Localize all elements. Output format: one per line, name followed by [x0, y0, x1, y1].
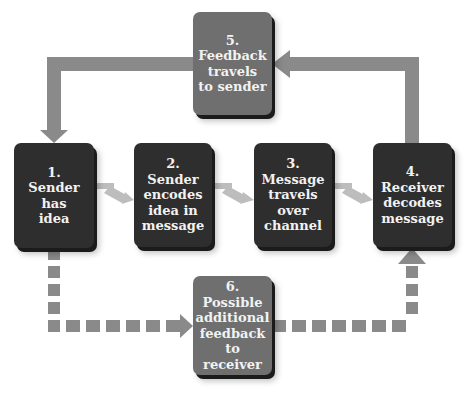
step-5-number: 5. [198, 33, 267, 49]
step-2-sender-encodes: 2.Sender encodes idea in message [134, 143, 212, 247]
step-6-number: 6. [195, 279, 270, 295]
step-6-label: Possible additional feedback to receiver [195, 295, 270, 373]
step-3-message-travels: 3.Message travels over channel [254, 143, 332, 247]
step-4-receiver-decodes: 4.Receiver decodes message [373, 143, 452, 247]
step-5-label: Feedback travels to sender [198, 48, 267, 95]
step-6-additional-feedback: 6.Possible additional feedback to receiv… [193, 276, 272, 375]
step-3-label: Message travels over channel [261, 172, 324, 234]
step-3-number: 3. [261, 156, 324, 172]
step-4-label: Receiver decodes message [381, 180, 444, 227]
step-2-label: Sender encodes idea in message [142, 172, 204, 234]
step-2-number: 2. [142, 156, 204, 172]
step-4-number: 4. [381, 164, 444, 180]
step-5-feedback-to-sender: 5.Feedback travels to sender [193, 12, 272, 115]
communication-diagram: 1.Sender has idea 2.Sender encodes idea … [0, 0, 467, 394]
step-1-number: 1. [28, 165, 79, 181]
step-1-sender-has-idea: 1.Sender has idea [14, 143, 94, 248]
step-1-label: Sender has idea [28, 180, 79, 227]
